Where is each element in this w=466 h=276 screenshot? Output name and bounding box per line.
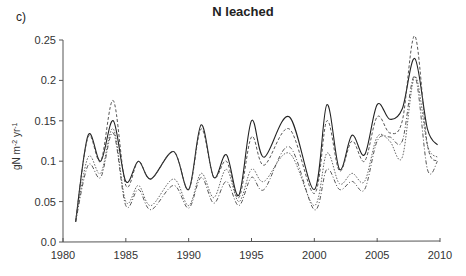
x-tick-label: 1985 bbox=[114, 249, 138, 261]
y-tick-label: 0.0 bbox=[41, 236, 56, 248]
series-line-solid bbox=[76, 58, 438, 221]
x-tick-label: 1980 bbox=[51, 249, 75, 261]
x-tick-label: 2005 bbox=[365, 249, 389, 261]
x-tick-label: 2000 bbox=[302, 249, 326, 261]
axes: 0.00.050.10.150.20.251980198519901995200… bbox=[35, 34, 453, 261]
y-tick-label: 0.15 bbox=[35, 115, 56, 127]
x-tick-label: 1990 bbox=[176, 249, 200, 261]
y-axis-label: gN m-2 yr-1 bbox=[11, 122, 23, 170]
y-tick-label: 0.05 bbox=[35, 196, 56, 208]
line-chart: 0.00.050.10.150.20.251980198519901995200… bbox=[0, 0, 466, 276]
x-tick-label: 2010 bbox=[428, 249, 452, 261]
series-line-dashed bbox=[76, 36, 438, 222]
plot-lines bbox=[76, 36, 438, 222]
y-tick-label: 0.2 bbox=[41, 74, 56, 86]
x-tick-label: 1995 bbox=[239, 249, 263, 261]
y-tick-label: 0.25 bbox=[35, 34, 56, 46]
y-tick-label: 0.1 bbox=[41, 155, 56, 167]
